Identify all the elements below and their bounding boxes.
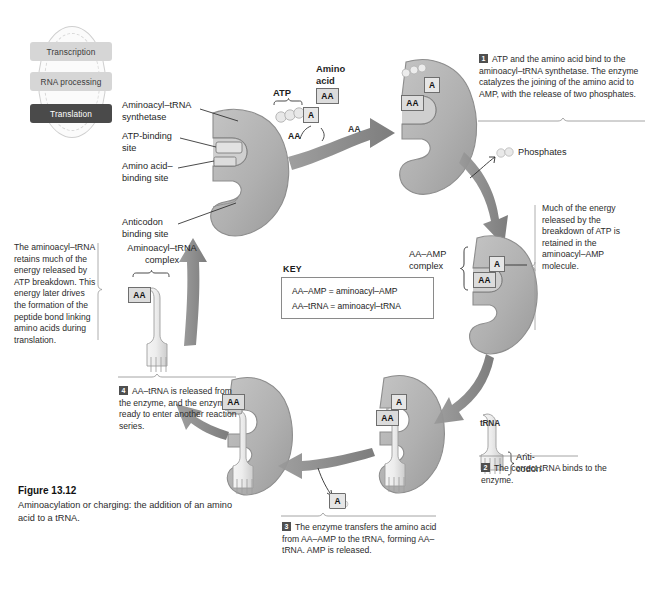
- tag-amino-acid-bound: AA: [401, 95, 424, 111]
- key-title: KEY: [283, 264, 302, 274]
- key-line-aa-trna: AA–tRNA = aminoacyl–tRNA: [292, 301, 401, 311]
- arrow-step3: [278, 448, 375, 479]
- label-phosphates: Phosphates: [518, 147, 567, 159]
- tag-aa-inline-left: AA: [288, 131, 300, 141]
- arrow-step1: [288, 118, 395, 170]
- arrow-step2: [434, 354, 494, 424]
- key-line-aa-amp: AA–AMP = aminoacyl–AMP: [292, 286, 397, 296]
- tag-adenosine-aa-amp: A: [489, 256, 505, 272]
- arrow-step1b: [459, 152, 508, 246]
- gene-expression-cycle-thumbnail: Transcription RNA processing Translation: [16, 24, 124, 138]
- enzyme-aa-amp-complex: [470, 236, 538, 354]
- key-box: AA–AMP = aminoacyl–AMP AA–tRNA = aminoac…: [281, 277, 434, 319]
- enzyme-trna-bound: [379, 376, 444, 493]
- tag-amino-acid-enzyme5: AA: [222, 394, 245, 410]
- step-2-number: 2: [481, 463, 490, 472]
- note-aminoacyl-trna-energy: The aminoacyl–tRNA retains much of the e…: [14, 242, 96, 346]
- figure-caption: Aminoacylation or charging: the addition…: [18, 499, 233, 524]
- label-amino-acid-binding-site: Amino acid– binding site: [122, 161, 200, 185]
- tag-adenosine-bound: A: [424, 77, 440, 93]
- step-2-text: The correct tRNA binds to the enzyme.: [481, 463, 607, 485]
- label-atp-binding-site: ATP-binding site: [122, 131, 194, 155]
- label-anticodon-binding-site: Anticodon binding site: [122, 217, 200, 241]
- step-3-callout: 3The enzyme transfers the amino acid fro…: [282, 522, 442, 557]
- step-4-number: 4: [119, 386, 128, 395]
- tag-adenosine-enzyme4: A: [391, 394, 407, 410]
- cycle-step-rna-processing: RNA processing: [30, 72, 112, 91]
- label-synthetase: Aminoacyl–tRNA synthetase: [122, 100, 202, 124]
- label-aa-amp-complex: AA–AMP complex: [409, 249, 465, 273]
- label-aminoacyl-trna-complex: Aminoacyl–tRNA complex: [118, 243, 206, 267]
- tag-amino-acid-free: AA: [316, 88, 339, 104]
- step-4-text: AA–tRNA is released from the enzyme, and…: [119, 386, 238, 431]
- tag-amino-acid-enzyme4: AA: [376, 410, 399, 426]
- phosphates-released: [470, 148, 513, 178]
- energy-left-rule: [98, 243, 102, 340]
- step-2-callout: 2The correct tRNA binds to the enzyme.: [481, 463, 611, 486]
- figure-number: Figure 13.12: [18, 485, 76, 496]
- enzyme-synthetase-1: [211, 109, 289, 236]
- step-3-number: 3: [282, 522, 291, 531]
- tag-amp-released: A: [329, 493, 346, 509]
- step-1-callout: 1ATP and the amino acid bind to the amin…: [479, 54, 644, 100]
- note-energy-retained: Much of the energy released by the break…: [542, 203, 642, 273]
- aminoacyl-trna-complex: [133, 271, 169, 373]
- tag-amino-acid-aa-amp: AA: [473, 272, 496, 288]
- tag-aa-on-arrow: AA: [348, 124, 361, 134]
- cycle-step-translation: Translation: [30, 104, 112, 123]
- label-atp: ATP: [273, 87, 291, 99]
- step-1-number: 1: [479, 54, 488, 63]
- tag-amino-acid-on-trna: AA: [128, 287, 151, 303]
- tag-adenosine-atp: A: [303, 107, 319, 123]
- step-1-text: ATP and the amino acid bind to the amino…: [479, 54, 638, 99]
- label-amino-acid: Amino acid: [316, 63, 360, 86]
- cycle-step-transcription: Transcription: [30, 42, 112, 61]
- step-4-callout: 4AA–tRNA is released from the enzyme, an…: [119, 386, 239, 432]
- label-trna: tRNA: [480, 418, 500, 428]
- step-3-text: The enzyme transfers the amino acid from…: [282, 522, 436, 555]
